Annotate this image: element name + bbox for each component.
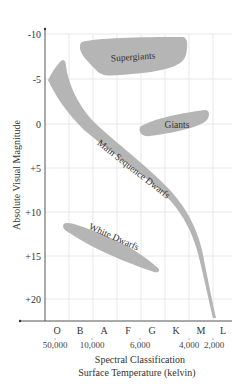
class-label-g: G bbox=[148, 325, 155, 336]
class-label-a: A bbox=[100, 325, 108, 336]
y-axis-title: Absolute Visual Magnitude bbox=[11, 120, 22, 230]
y-tick: -10 bbox=[28, 29, 41, 40]
temp-label: 50,000 bbox=[43, 340, 68, 350]
class-label-m: M bbox=[197, 325, 206, 336]
class-label-k: K bbox=[172, 325, 180, 336]
class-label-l: L bbox=[220, 325, 226, 336]
hr-diagram-chart: -10 -5 0 +5 +10 +15 +20 Absolute Visual … bbox=[0, 0, 245, 388]
class-label-o: O bbox=[53, 325, 60, 336]
x-axis-title: Spectral Classification bbox=[95, 354, 185, 365]
y-tick: +5 bbox=[30, 163, 41, 174]
spectral-class-labels: O B A F G K M L bbox=[53, 325, 226, 336]
class-label-b: B bbox=[77, 325, 84, 336]
y-tick: +20 bbox=[25, 294, 41, 305]
temp-label: 2,000 bbox=[204, 340, 225, 350]
class-label-f: F bbox=[125, 325, 131, 336]
temp-label: 10,000 bbox=[80, 340, 105, 350]
y-tick: +15 bbox=[25, 251, 41, 262]
y-tick: 0 bbox=[36, 119, 41, 130]
temp-label: 6,000 bbox=[130, 340, 151, 350]
main-sequence-label: Main Sequence Dwarfs bbox=[95, 138, 172, 201]
y-tick: +10 bbox=[25, 207, 41, 218]
temp-label: 4,000 bbox=[179, 340, 200, 350]
temperature-labels: 50,000 10,000 6,000 4,000 2,000 bbox=[43, 340, 225, 350]
y-tick-labels: -10 -5 0 +5 +10 +15 +20 bbox=[25, 29, 41, 305]
main-sequence-region bbox=[48, 60, 216, 318]
y-tick: -5 bbox=[33, 74, 41, 85]
x-axis-subtitle: Surface Temperature (kelvin) bbox=[78, 367, 195, 379]
giants-label: Giants bbox=[165, 120, 190, 130]
